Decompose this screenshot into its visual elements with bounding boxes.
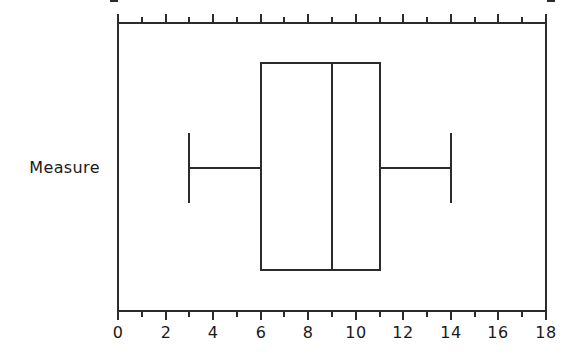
x-axis-tick-top-6 [260,14,262,22]
x-axis-tick-label: 16 [487,324,508,342]
x-axis-tick-bottom-18 [545,312,547,320]
x-axis-tick-label: 14 [440,324,461,342]
x-axis-tick-top-13 [426,17,428,22]
x-axis-tick-bottom-1 [141,312,143,317]
x-axis-tick-bottom-7 [283,312,285,317]
x-axis-tick-bottom-15 [474,312,476,317]
x-axis-tick-top-12 [402,14,404,22]
x-axis-tick-label: 10 [345,324,366,342]
x-axis-tick-bottom-8 [307,312,309,320]
x-axis-tick-bottom-17 [521,312,523,317]
x-axis-tick-bottom-10 [355,312,357,320]
box-edge-bottom [260,269,381,271]
x-axis-tick-label: 8 [303,324,314,342]
plot-frame-top-axis [117,22,547,24]
x-axis-tick-bottom-14 [450,312,452,320]
whisker-upper [380,167,451,169]
x-axis-tick-top-1 [141,17,143,22]
box-edge-top [260,62,381,64]
x-axis-tick-top-16 [497,14,499,22]
x-axis-tick-top-8 [307,14,309,22]
x-axis-tick-bottom-4 [212,312,214,320]
x-axis-tick-bottom-16 [497,312,499,320]
x-axis-tick-bottom-6 [260,312,262,320]
x-axis-tick-top-0 [117,14,119,22]
x-axis-tick-bottom-2 [165,312,167,320]
category-tick-left [110,0,118,2]
category-tick-right [547,0,555,2]
box-edge-q1 [260,62,262,269]
x-axis-tick-label: 0 [113,324,124,342]
x-axis-tick-label: 12 [392,324,413,342]
x-axis-tick-top-14 [450,14,452,22]
x-axis-tick-bottom-0 [117,312,119,320]
x-axis-tick-bottom-12 [402,312,404,320]
plot-frame-left-axis [117,22,119,312]
x-axis-tick-bottom-9 [331,312,333,317]
x-axis-tick-top-7 [283,17,285,22]
x-axis-tick-bottom-11 [379,312,381,317]
x-axis-tick-top-18 [545,14,547,22]
whisker-lower [189,167,261,169]
plot-frame-right-axis [545,22,547,312]
x-axis-tick-label: 4 [208,324,219,342]
x-axis-tick-top-3 [188,17,190,22]
x-axis-tick-top-10 [355,14,357,22]
x-axis-tick-label: 2 [161,324,172,342]
x-axis-tick-top-4 [212,14,214,22]
x-axis-tick-top-2 [165,14,167,22]
x-axis-tick-top-17 [521,17,523,22]
x-axis-tick-bottom-3 [188,312,190,317]
x-axis-tick-bottom-13 [426,312,428,317]
box-edge-q3 [379,62,381,269]
x-axis-tick-top-9 [331,17,333,22]
x-axis-tick-top-11 [379,17,381,22]
x-axis-tick-label: 6 [256,324,267,342]
box-plot-figure: 024681012141618 Measure [0,0,583,359]
x-axis-tick-top-5 [236,17,238,22]
x-axis-tick-label: 18 [535,324,556,342]
x-axis-tick-top-15 [474,17,476,22]
category-axis-label: Measure [29,158,100,178]
x-axis-tick-bottom-5 [236,312,238,317]
median-line [331,62,333,269]
